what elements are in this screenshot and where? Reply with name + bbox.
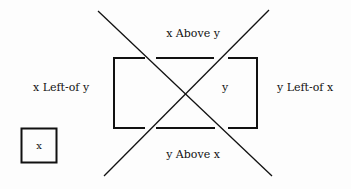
label-y-left-of-x: y Left-of x xyxy=(276,81,334,94)
box-y-outline xyxy=(114,58,257,128)
label-x-left-of-y: x Left-of y xyxy=(33,81,90,94)
spatial-relations-diagram: x Above y y Above x x Left-of y y Left-o… xyxy=(0,0,351,189)
diagram-svg: x Above y y Above x x Left-of y y Left-o… xyxy=(0,0,351,189)
label-box-x: x xyxy=(36,140,42,151)
label-y-above-x: y Above x xyxy=(165,148,221,161)
label-box-y: y xyxy=(221,81,229,94)
label-x-above-y: x Above y xyxy=(166,27,221,40)
